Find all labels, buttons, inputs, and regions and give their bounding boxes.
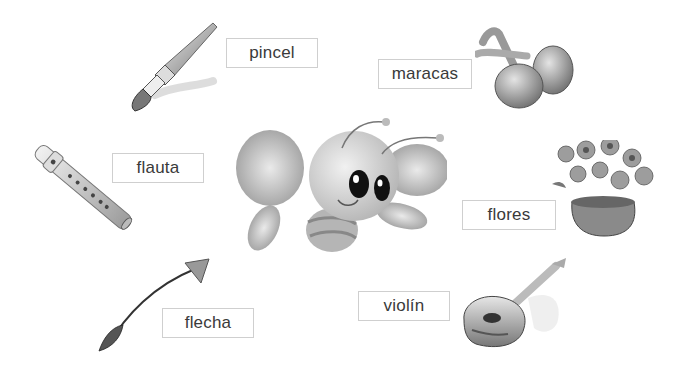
label-pincel: pincel — [226, 38, 318, 68]
paintbrush-icon — [115, 15, 225, 115]
bee-character-icon — [232, 118, 447, 258]
label-maracas: maracas — [378, 59, 472, 89]
flowers-icon — [548, 140, 658, 238]
label-violin: violín — [358, 291, 450, 321]
violin-icon — [458, 258, 568, 353]
label-flecha: flecha — [162, 308, 254, 338]
arrow-icon — [95, 255, 215, 355]
label-flauta: flauta — [112, 153, 204, 183]
maracas-icon — [475, 20, 575, 112]
label-flores: flores — [462, 200, 556, 230]
